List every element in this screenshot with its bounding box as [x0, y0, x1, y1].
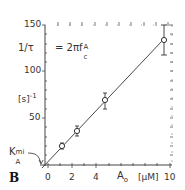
x-axis-unit: [μM]: [138, 173, 159, 182]
equation-text: = 2πf: [55, 42, 82, 53]
kami-label: KmiA: [9, 147, 28, 157]
y-axis-label: 1/τ: [18, 43, 34, 53]
x-tick-label-0: 0: [45, 173, 51, 182]
data-point: [74, 128, 79, 133]
equation-sub: c: [83, 54, 87, 61]
y-tick-label-150: 150: [24, 20, 41, 29]
x-axis-label-text: A: [117, 170, 124, 181]
x-axis-label: Ao: [117, 171, 128, 184]
y-axis-unit: [s]-1: [18, 93, 37, 104]
x-ticks-top: [58, 22, 168, 26]
y-tick-label-50: 50: [29, 113, 40, 122]
kami-arrow: [28, 153, 41, 163]
x-tick-label-10: 10: [164, 173, 175, 182]
y-tick-label-100: 100: [24, 66, 41, 75]
equation-sup: A: [83, 44, 88, 51]
data-point: [59, 143, 64, 148]
x-tick-label-4: 4: [93, 173, 99, 182]
y-ticks-right: [169, 25, 173, 155]
kami-sub: A: [16, 159, 21, 166]
y-axis-unit-text: [s]: [18, 94, 30, 104]
x-axis-label-sub: o: [124, 176, 128, 184]
kami-sup: mi: [16, 149, 25, 156]
equation-label: = 2πfAc: [55, 43, 90, 53]
data-point: [102, 97, 107, 102]
x-tick-label-2: 2: [69, 173, 75, 182]
panel-label: B: [9, 172, 19, 184]
y-axis-unit-sup: -1: [30, 92, 37, 100]
data-point: [161, 37, 166, 42]
